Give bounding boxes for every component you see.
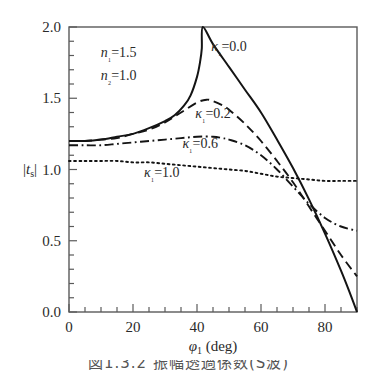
y-axis-title: |ts|: [23, 161, 37, 179]
y-tick-label: 1.5: [42, 90, 61, 106]
x-tick-label: 80: [318, 319, 333, 335]
y-tick-label: 2.0: [42, 19, 61, 35]
x-tick-label: 20: [126, 319, 141, 335]
figure-caption: 図1.3.2 振幅透過係数(S波): [88, 360, 348, 373]
annotation-param-n2: n₂=1.0: [101, 68, 137, 85]
annotation-param-n1: n₁=1.5: [101, 45, 137, 62]
x-axis-title: φ1 (deg): [189, 338, 238, 356]
annotation-label-k0: κ₁=0.0: [211, 39, 247, 56]
fresnel-transmission-chart: 020406080 0.00.51.01.52.0 φ1 (deg) |ts| …: [0, 0, 374, 380]
annotation-label-k06: κ₁=0.6: [182, 136, 218, 153]
x-tick-label: 0: [65, 319, 73, 335]
figure-container: 020406080 0.00.51.01.52.0 φ1 (deg) |ts| …: [0, 0, 374, 380]
annotation-label-k10: κ₁=1.0: [144, 165, 180, 182]
y-tick-label: 0.0: [42, 304, 61, 320]
y-axis-tick-labels: 0.00.51.01.52.0: [42, 19, 61, 320]
figure-caption-strip: 図1.3.2 振幅透過係数(S波): [0, 360, 374, 380]
y-tick-label: 0.5: [42, 233, 61, 249]
y-tick-label: 1.0: [42, 162, 61, 178]
annotation-label-k02: κ₁=0.2: [195, 106, 231, 123]
x-tick-label: 60: [254, 319, 269, 335]
x-axis-tick-labels: 020406080: [65, 319, 332, 335]
x-tick-label: 40: [190, 319, 205, 335]
